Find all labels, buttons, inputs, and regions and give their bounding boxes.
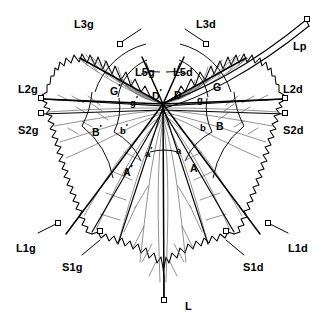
label-Lp: Lp xyxy=(293,41,307,52)
label-angle-D: D xyxy=(174,90,182,101)
label-angle-A-prime: A′ xyxy=(123,163,133,177)
label-angle-a-prime: a′ xyxy=(145,146,152,159)
label-S1g: S1g xyxy=(62,262,82,273)
label-angle-B-prime: B′ xyxy=(92,123,102,137)
label-angle-a: a xyxy=(176,146,181,156)
marker-L2d xyxy=(283,96,288,101)
prime-mark: ′ xyxy=(160,86,162,97)
marker-S1g xyxy=(98,229,103,234)
angle-symbol: b xyxy=(200,122,206,133)
prime-mark: ′ xyxy=(131,162,133,173)
label-L5g: L5g xyxy=(135,67,155,78)
prime-mark: ′ xyxy=(150,145,152,155)
angle-symbol: g xyxy=(197,94,203,105)
label-L: L xyxy=(185,301,192,312)
label-angle-g-prime: g′ xyxy=(130,95,138,108)
label-angle-A: A xyxy=(190,163,198,174)
vein-L1d xyxy=(163,104,260,234)
endpoint-markers-group xyxy=(39,17,310,303)
prime-mark: ′ xyxy=(118,81,120,92)
label-S2g: S2g xyxy=(18,125,38,136)
leader-L3d xyxy=(185,29,206,43)
prime-mark: ′ xyxy=(136,94,138,104)
leader-S1g xyxy=(82,240,100,255)
label-angle-g: g xyxy=(197,95,203,105)
vein-L xyxy=(163,104,164,300)
label-S1d: S1d xyxy=(243,262,263,273)
vein-L3g xyxy=(80,58,163,104)
angle-symbol: G xyxy=(213,81,221,93)
leaf-margin-lower-right xyxy=(164,232,234,268)
leaf-margin-left-flank xyxy=(41,100,92,234)
angle-symbol: B xyxy=(92,126,100,138)
vein-L1g xyxy=(66,104,163,234)
label-angle-b: b xyxy=(200,123,206,133)
label-L1d: L1d xyxy=(288,243,308,254)
leader-S1d xyxy=(226,240,244,255)
label-L5d: L5d xyxy=(173,67,193,78)
marker-L1g xyxy=(56,221,61,226)
label-angle-D-prime: D′ xyxy=(152,87,162,101)
arc-a xyxy=(185,132,212,161)
marker-L3g xyxy=(118,42,123,47)
angle-symbol: B xyxy=(216,120,224,132)
leader-L3g xyxy=(120,29,141,43)
label-L3d: L3d xyxy=(196,19,216,30)
marker-L2g xyxy=(39,96,44,101)
angle-symbol: A xyxy=(190,162,198,174)
angle-symbol: a xyxy=(176,145,181,156)
angle-symbol: A xyxy=(123,166,131,178)
angle-symbol: G xyxy=(110,85,118,97)
label-S2d: S2d xyxy=(283,125,303,136)
leaf-margin-right-flank xyxy=(234,100,285,234)
label-angle-G: G xyxy=(213,82,221,93)
marker-S2g xyxy=(39,111,44,116)
marker-L3d xyxy=(204,42,209,47)
label-L2g: L2g xyxy=(18,84,38,95)
label-angle-B: B xyxy=(216,121,224,132)
prime-mark: ′ xyxy=(100,122,102,133)
marker-L-apex xyxy=(162,298,167,303)
label-L2d: L2d xyxy=(283,84,303,95)
angle-symbol: D xyxy=(152,90,160,102)
marker-S1d xyxy=(224,229,229,234)
label-angle-b-prime: b′ xyxy=(120,123,128,136)
marker-L1d xyxy=(266,221,271,226)
leaf-drawing xyxy=(0,0,326,319)
angle-symbol: D xyxy=(174,89,182,101)
label-angle-G-prime: G′ xyxy=(110,82,121,96)
label-L1g: L1g xyxy=(16,243,36,254)
leaf-diagram-figure: L3gL3dLpL5gL5dL2gL2dS2gS2dL1gL1dS1gS1dL … xyxy=(0,0,326,319)
petiolar-point xyxy=(161,104,165,108)
marker-S2d xyxy=(283,111,288,116)
arc-a-prime xyxy=(114,132,141,161)
label-L3g: L3g xyxy=(74,19,94,30)
marker-Lp-tip xyxy=(305,17,310,22)
prime-mark: ′ xyxy=(126,122,128,132)
